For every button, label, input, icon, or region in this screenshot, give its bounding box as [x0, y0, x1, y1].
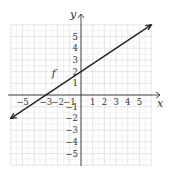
x-tick-label: −2 — [51, 97, 64, 107]
x-tick-label: 3 — [113, 97, 118, 107]
y-tick-label: 5 — [73, 32, 78, 42]
x-tick-label: 4 — [125, 97, 130, 107]
y-tick-label: −5 — [65, 149, 78, 159]
x-axis-label: x — [157, 97, 164, 110]
x-tick-label: 5 — [137, 97, 142, 107]
x-tick-label: −5 — [16, 97, 29, 107]
series-label: f — [51, 67, 58, 80]
y-axis-label: y — [69, 8, 77, 21]
y-tick-label: 3 — [73, 55, 78, 65]
x-tick-label: 1 — [90, 97, 95, 107]
y-tick-label: −4 — [65, 137, 78, 147]
x-tick-label: 2 — [102, 97, 107, 107]
line-chart: x y −5−3−2−112345 54321−1−2−3−4−5 f — [0, 0, 171, 170]
y-tick-label: 4 — [73, 43, 78, 53]
y-tick-label: −2 — [65, 113, 78, 123]
y-tick-label: −1 — [65, 102, 78, 112]
y-tick-label: −3 — [65, 125, 78, 135]
y-tick-label: 1 — [73, 78, 78, 88]
